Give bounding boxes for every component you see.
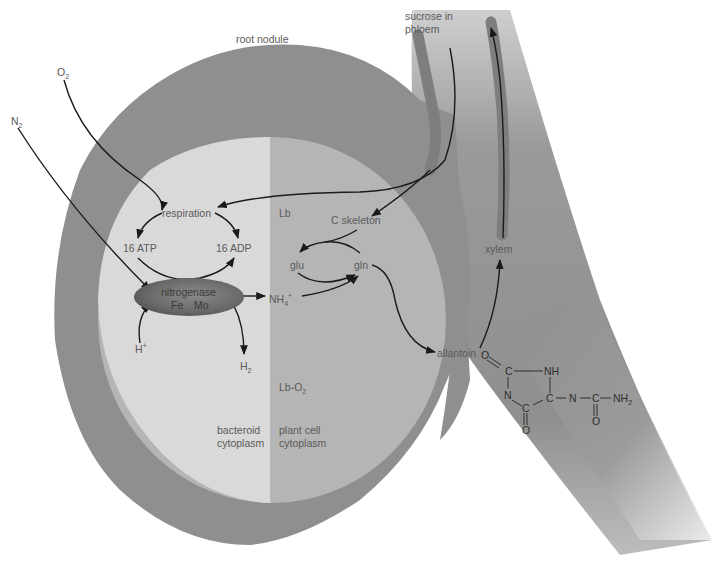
label-bacteroid-line1: bacteroid (217, 424, 260, 436)
o2-subscript: 2 (65, 73, 69, 80)
label-root-nodule: root nodule (236, 33, 289, 45)
label-respiration: respiration (162, 207, 211, 219)
atom-n-chain: N (569, 393, 577, 404)
atom-o-top: O (481, 350, 489, 361)
nh4-symbol: NH (269, 293, 284, 305)
h2-symbol: H (240, 360, 248, 372)
atom-nh2: NH2 (613, 393, 632, 408)
label-glu: glu (290, 259, 304, 271)
atom-c2: C (522, 403, 530, 414)
atom-nh: NH (544, 366, 559, 377)
o2-symbol: O (57, 66, 65, 78)
label-plant-line1: plant cell (279, 424, 320, 436)
label-xylem: xylem (485, 243, 512, 255)
label-nitrogenase: nitrogenase (161, 286, 216, 298)
nh4-superscript: + (288, 292, 292, 299)
atom-n-ring: N (504, 390, 512, 401)
lb-o2-symbol: Lb-O (279, 381, 302, 393)
n2-subscript: 2 (19, 122, 23, 129)
h2-subscript: 2 (248, 367, 252, 374)
label-16-atp: 16 ATP (123, 242, 157, 254)
label-lb: Lb (279, 207, 291, 219)
label-n2: N2 (11, 115, 23, 132)
atom-c-ring: C (546, 393, 554, 404)
label-sucrose-line1: sucrose in (405, 10, 453, 22)
label-plant-line2: cytoplasm (279, 437, 326, 449)
label-gln: gln (354, 259, 368, 271)
nh2-subscript: 2 (628, 399, 632, 406)
label-fe: Fe (171, 299, 183, 311)
n2-symbol: N (11, 115, 19, 127)
h-plus-symbol: H (135, 343, 143, 355)
label-h2: H2 (240, 360, 252, 377)
label-bacteroid-line2: cytoplasm (217, 437, 264, 449)
label-h-plus: H+ (135, 340, 147, 355)
label-allantoin: allantoin (437, 347, 476, 359)
label-mo: Mo (194, 299, 209, 311)
nh4-subscript: 4 (284, 300, 288, 307)
label-c-skeleton: C skeleton (331, 214, 381, 226)
atom-o-chain: O (592, 416, 600, 427)
atom-c-chain: C (592, 393, 600, 404)
h-plus-superscript: + (143, 342, 147, 349)
label-o2: O2 (57, 66, 69, 83)
label-16-adp: 16 ADP (216, 242, 252, 254)
nodule-diagram (0, 0, 715, 563)
label-nh4: NH4+ (269, 290, 292, 310)
label-lb-o2: Lb-O2 (279, 381, 306, 398)
atom-o-bottom: O (522, 425, 530, 436)
lb-o2-subscript: 2 (302, 388, 306, 395)
atom-c1: C (505, 366, 513, 377)
nh2-symbol: NH (613, 392, 628, 404)
label-sucrose-line2: phloem (405, 23, 439, 35)
